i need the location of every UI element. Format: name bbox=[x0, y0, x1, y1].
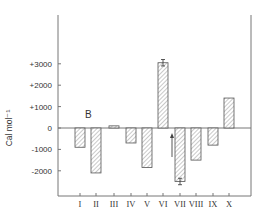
y-tick-label: +2000 bbox=[30, 81, 53, 90]
bar-v bbox=[142, 128, 152, 168]
x-ticks: IIIIIIIVVVIVIIVIIIIXX bbox=[79, 193, 232, 209]
x-tick-label: III bbox=[110, 199, 119, 209]
x-tick-label: IX bbox=[209, 199, 218, 209]
panel-label: B bbox=[85, 109, 92, 120]
bar-vii bbox=[175, 128, 185, 182]
y-axis-label: Cal mol⁻¹ bbox=[4, 110, 14, 147]
bars bbox=[75, 60, 234, 185]
bar-ii bbox=[91, 128, 101, 173]
arrow-icon bbox=[170, 133, 174, 157]
x-tick-label: II bbox=[93, 199, 99, 209]
x-tick-label: I bbox=[79, 199, 82, 209]
x-tick-label: VI bbox=[159, 199, 168, 209]
bar-chart: +3000+2000+10000-1000-2000 IIIIIIIVVVIVI… bbox=[0, 0, 264, 216]
x-tick-label: V bbox=[144, 199, 151, 209]
y-tick-label: +3000 bbox=[30, 60, 53, 69]
plot-frame bbox=[58, 15, 251, 196]
y-tick-label: -1000 bbox=[32, 145, 53, 154]
bar-vi bbox=[158, 63, 168, 128]
bar-viii bbox=[191, 128, 201, 160]
x-tick-label: VIII bbox=[189, 199, 204, 209]
x-tick-label: IV bbox=[127, 199, 137, 209]
bar-iii bbox=[109, 126, 119, 128]
bar-x bbox=[224, 98, 234, 128]
x-tick-label: X bbox=[226, 199, 232, 209]
bar-ix bbox=[208, 128, 218, 145]
bar-iv bbox=[126, 128, 136, 143]
y-tick-label: 0 bbox=[48, 124, 53, 133]
bar-i bbox=[75, 128, 85, 147]
x-tick-label: VII bbox=[174, 199, 186, 209]
y-ticks: +3000+2000+10000-1000-2000 bbox=[30, 60, 61, 176]
y-tick-label: +1000 bbox=[30, 103, 53, 112]
y-tick-label: -2000 bbox=[32, 167, 53, 176]
